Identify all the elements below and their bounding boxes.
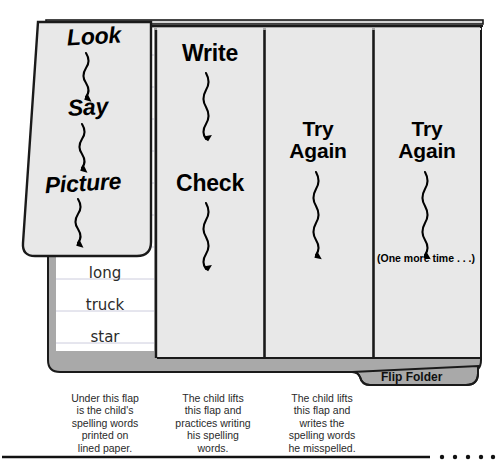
spelling-word: star (56, 328, 154, 346)
spelling-word: truck (56, 296, 154, 314)
caption-flap-3: The child lifts this flap and writes the… (272, 392, 372, 454)
folder-tab-label: Flip Folder (381, 370, 442, 384)
footer-rule (2, 455, 495, 459)
step-label-try-again-1: Try Again (268, 118, 368, 162)
one-more-time-note: (One more time . . .) (377, 252, 475, 264)
caption-flap-1: Under this flap is the child's spelling … (55, 392, 155, 454)
spelling-word: long (56, 264, 154, 282)
flip-folder-figure: Look Say Picture Write Check Try Again T… (0, 0, 496, 469)
step-label-try-again-2: Try Again (377, 118, 477, 162)
step-label-check: Check (160, 172, 260, 196)
step-label-write: Write (160, 42, 260, 66)
caption-flap-2: The child lifts this flap and practices … (163, 392, 263, 454)
